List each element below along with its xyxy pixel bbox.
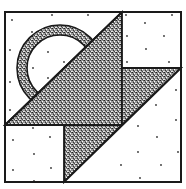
top-right-square [122,12,181,68]
quilt-block-diagram [0,0,186,189]
